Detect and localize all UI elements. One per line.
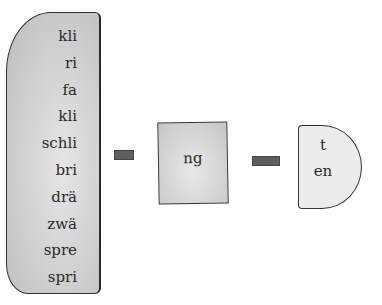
- syllable: fa: [42, 77, 77, 104]
- syllable: spre: [42, 237, 77, 264]
- ending-text: t: [299, 136, 347, 154]
- syllable: bri: [42, 157, 77, 184]
- ending-text: en: [299, 162, 347, 180]
- syllable: drä: [42, 184, 77, 211]
- connector-left-middle: [114, 150, 134, 160]
- middle-text: ng: [159, 148, 227, 167]
- syllable: zwä: [42, 211, 77, 238]
- middle-piece: ng: [157, 121, 228, 204]
- syllable-list: kli ri fa kli schli bri drä zwä spre spr…: [42, 23, 77, 291]
- syllable: ri: [42, 50, 77, 77]
- syllable-start-piece: kli ri fa kli schli bri drä zwä spre spr…: [6, 12, 101, 294]
- connector-middle-right: [252, 156, 280, 166]
- syllable: kli: [42, 103, 77, 130]
- syllable: spri: [42, 264, 77, 291]
- ending-piece: t en: [298, 125, 362, 209]
- syllable: kli: [42, 23, 77, 50]
- syllable: schli: [42, 130, 77, 157]
